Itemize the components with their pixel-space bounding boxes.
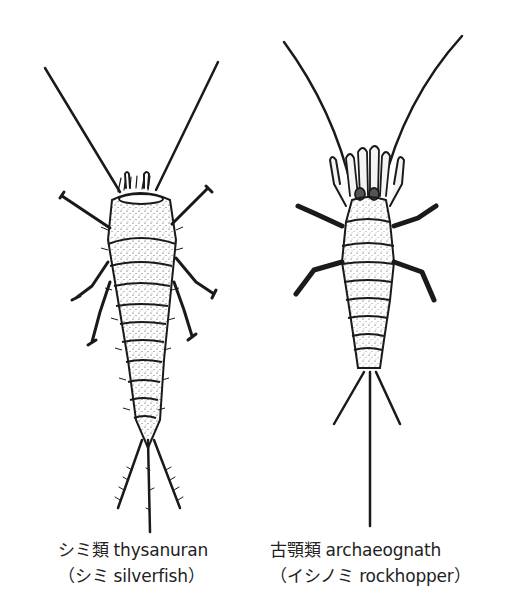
rockhopper-illustration bbox=[254, 0, 508, 540]
silverfish-illustration bbox=[0, 0, 254, 540]
silverfish-caption: シミ類 thysanuran （シミ silverfish） bbox=[58, 537, 208, 589]
rockhopper-caption: 古顎類 archaeognath （イシノミ rockhopper） bbox=[270, 537, 470, 589]
rockhopper-caption-line2: （イシノミ rockhopper） bbox=[270, 563, 470, 589]
insect-comparison-figure: シミ類 thysanuran （シミ silverfish） 古顎類 archa… bbox=[0, 0, 508, 601]
silverfish-caption-line2: （シミ silverfish） bbox=[58, 563, 208, 589]
silverfish-caption-line1: シミ類 thysanuran bbox=[58, 537, 208, 563]
rockhopper-caption-line1: 古顎類 archaeognath bbox=[270, 537, 470, 563]
